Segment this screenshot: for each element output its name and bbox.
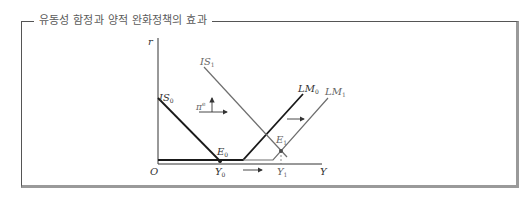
e0-point (218, 159, 222, 163)
inflation-expectation-label: πe (195, 100, 206, 112)
e1-point (279, 149, 283, 153)
x-axis-label: Y (320, 166, 328, 177)
origin-label: O (150, 166, 158, 177)
is1-label: IS1 (199, 56, 215, 68)
is0-label: IS0 (158, 92, 174, 104)
y-axis-label: r (148, 36, 154, 47)
lm1-label: LM1 (324, 86, 346, 98)
lm1-curve (243, 98, 328, 160)
e0-label: E0 (216, 146, 228, 158)
lm0-label: LM0 (297, 83, 319, 95)
e1-label: E1 (275, 134, 287, 146)
y1-label: Y1 (277, 166, 287, 178)
y0-label: Y0 (215, 166, 226, 178)
islm-diagram: r Y O IS0 IS1 LM0 LM1 E0 E1 Y0 Y1 πe (0, 0, 532, 200)
